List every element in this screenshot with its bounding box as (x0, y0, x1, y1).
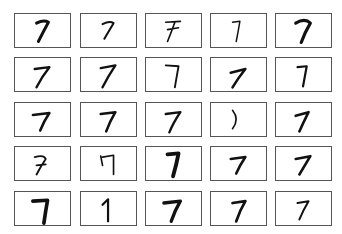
digit-image-r3c3 (145, 102, 202, 137)
handwritten-seven-icon (276, 147, 331, 180)
digit-image-r2c4 (210, 57, 267, 92)
digit-image-r4c5 (275, 146, 332, 181)
digit-image-r1c1 (14, 13, 71, 48)
handwritten-seven-icon (211, 103, 266, 136)
digit-image-r5c2 (80, 191, 137, 226)
handwritten-seven-icon (146, 192, 201, 225)
digit-image-r4c4 (210, 146, 267, 181)
digit-image-r4c3 (145, 146, 202, 181)
handwritten-seven-icon (211, 14, 266, 47)
digit-image-r1c2 (80, 13, 137, 48)
handwritten-seven-icon (81, 14, 136, 47)
handwritten-seven-icon (81, 192, 136, 225)
handwritten-seven-icon (146, 103, 201, 136)
digit-image-r5c4 (210, 191, 267, 226)
handwritten-seven-icon (276, 14, 331, 47)
digit-image-r3c4 (210, 102, 267, 137)
handwritten-seven-icon (146, 147, 201, 180)
digit-image-r1c5 (275, 13, 332, 48)
handwritten-seven-icon (211, 147, 266, 180)
digit-image-r3c1 (14, 102, 71, 137)
handwritten-seven-icon (81, 103, 136, 136)
digit-image-r2c5 (275, 57, 332, 92)
digit-image-r1c4 (210, 13, 267, 48)
digit-image-r2c3 (145, 57, 202, 92)
handwritten-seven-icon (146, 58, 201, 91)
handwritten-seven-icon (211, 192, 266, 225)
handwritten-seven-icon (276, 192, 331, 225)
digit-image-r5c3 (145, 191, 202, 226)
handwritten-seven-icon (15, 14, 70, 47)
handwritten-seven-icon (15, 58, 70, 91)
digit-image-r5c5 (275, 191, 332, 226)
digit-image-r5c1 (14, 191, 71, 226)
handwritten-seven-icon (81, 147, 136, 180)
digit-image-r3c2 (80, 102, 137, 137)
digit-image-r4c2 (80, 146, 137, 181)
handwritten-seven-icon (15, 103, 70, 136)
handwritten-seven-icon (81, 58, 136, 91)
digit-image-r3c5 (275, 102, 332, 137)
handwritten-seven-icon (15, 192, 70, 225)
digit-image-r2c2 (80, 57, 137, 92)
handwritten-seven-icon (146, 14, 201, 47)
digit-image-r4c1 (14, 146, 71, 181)
handwritten-seven-icon (276, 103, 331, 136)
handwritten-seven-icon (276, 58, 331, 91)
handwritten-seven-icon (211, 58, 266, 91)
digit-image-r2c1 (14, 57, 71, 92)
handwritten-seven-icon (15, 147, 70, 180)
digit-image-r1c3 (145, 13, 202, 48)
